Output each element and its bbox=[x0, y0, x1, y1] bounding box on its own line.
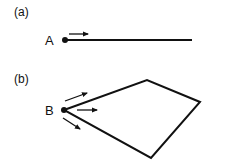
arrow-down-right-icon bbox=[63, 118, 80, 129]
diagram-canvas bbox=[0, 0, 230, 166]
panel-a bbox=[62, 34, 192, 43]
quadrilateral bbox=[64, 80, 200, 158]
arrow-up-right-icon bbox=[65, 93, 87, 101]
panel-b bbox=[61, 80, 200, 158]
point-b-dot bbox=[61, 107, 67, 113]
point-a-dot bbox=[62, 37, 68, 43]
